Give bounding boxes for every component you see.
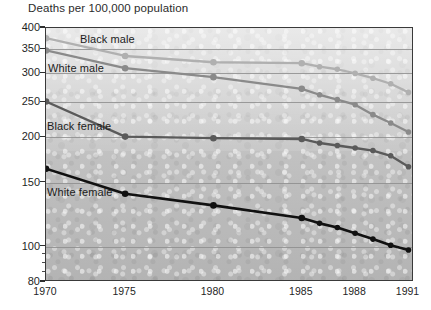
data-point (335, 225, 341, 231)
y-tick-label-200: 200 (22, 130, 40, 142)
data-point (122, 190, 129, 197)
y-tick-label-300: 300 (22, 66, 40, 78)
data-point (122, 133, 129, 140)
series-label-black-female: Black female (47, 120, 111, 132)
data-point (210, 135, 217, 142)
y-tick-100 (40, 245, 45, 246)
data-point (335, 66, 341, 72)
x-tick-label-1975: 1975 (112, 285, 135, 297)
data-point (335, 97, 341, 103)
y-tick-400 (40, 26, 45, 27)
y-tick-label-400: 400 (22, 21, 40, 33)
data-point (388, 81, 394, 87)
data-point (46, 165, 49, 172)
data-point (210, 74, 217, 81)
x-tick-label-1985: 1985 (289, 285, 312, 297)
data-point (388, 153, 394, 159)
y-tick-350 (40, 48, 45, 49)
data-point (298, 86, 305, 93)
data-point (370, 75, 376, 81)
data-point (46, 47, 49, 54)
data-point (406, 90, 412, 96)
y-tick-150 (40, 181, 45, 182)
data-point (122, 65, 129, 72)
data-point (298, 60, 305, 67)
y-tick-80 (40, 280, 45, 281)
data-point (406, 129, 412, 135)
data-point (298, 215, 305, 222)
y-tick-minor-90 (42, 262, 45, 263)
chart-root: Deaths per 100,000 population 4003503002… (0, 0, 431, 310)
series-label-black-male: Black male (80, 33, 135, 45)
series-black-female (46, 98, 411, 169)
data-point (388, 242, 394, 248)
data-point (352, 230, 358, 236)
series-line (46, 169, 408, 250)
y-tick-label-250: 250 (22, 95, 40, 107)
chart-title: Deaths per 100,000 population (28, 2, 188, 14)
series-label-white-male: White male (48, 62, 104, 74)
data-point (352, 102, 358, 108)
y-tick-minor-95 (42, 253, 45, 254)
data-point (122, 53, 129, 60)
data-point (298, 136, 305, 143)
y-tick-label-100: 100 (22, 240, 40, 252)
y-tick-label-150: 150 (22, 176, 40, 188)
data-point (388, 120, 394, 126)
y-tick-minor-85 (42, 271, 45, 272)
x-tick-label-1980: 1980 (201, 285, 224, 297)
data-point (406, 247, 412, 253)
x-tick-label-1988: 1988 (342, 285, 365, 297)
series-line (46, 102, 408, 167)
y-tick-label-350: 350 (22, 42, 40, 54)
data-point (317, 221, 323, 227)
y-tick-250 (40, 101, 45, 102)
data-point (317, 64, 323, 70)
data-point (406, 164, 412, 170)
data-point (317, 92, 323, 98)
data-point (335, 143, 341, 149)
data-point (46, 35, 49, 42)
data-point (210, 202, 217, 209)
x-tick-label-1991: 1991 (396, 285, 419, 297)
series-label-white-female: White female (47, 186, 112, 198)
data-point (370, 112, 376, 118)
data-point (352, 71, 358, 77)
y-tick-200 (40, 136, 45, 137)
x-tick-label-1970: 1970 (33, 285, 56, 297)
data-point (370, 236, 376, 242)
data-point (370, 148, 376, 154)
series-white-female (46, 165, 411, 252)
data-point (352, 145, 358, 151)
y-tick-300 (40, 72, 45, 73)
data-point (210, 59, 217, 66)
data-point (317, 140, 323, 146)
